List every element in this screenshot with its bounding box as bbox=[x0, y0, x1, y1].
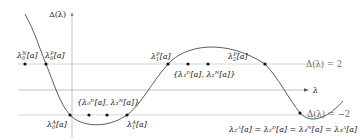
point-lambda1N bbox=[105, 113, 108, 116]
label-lambda0N: λ0N[a] bbox=[16, 50, 39, 61]
point-lambda2N bbox=[206, 62, 209, 65]
equality-label: λ₂ᴬ[a] = λ₂ᴰ[a] = λ₃ᴺ[a] = λ₃ᴬ[a] bbox=[228, 125, 358, 134]
lambda-axis-arrow-icon bbox=[304, 88, 309, 92]
upper-set-label: {λ₁ᴰ[a], λ₂ᴺ[a]} bbox=[173, 70, 235, 79]
discriminant-diagram: Δ(λ) λ Δ(λ) = 2 Δ(λ) = −2 λ0N[a] λ0P[a] … bbox=[0, 0, 360, 140]
x-axis-label: λ bbox=[312, 86, 318, 95]
label-lambda2P: λ2P[a] bbox=[227, 51, 249, 62]
lower-level-label: Δ(λ) = −2 bbox=[307, 109, 350, 119]
point-lambda1D bbox=[186, 62, 189, 65]
point-lambda0D bbox=[87, 113, 90, 116]
label-lambda0A: λ0A[a] bbox=[46, 119, 68, 130]
point-lambda2A bbox=[298, 111, 301, 114]
label-lambda1P: λ1P[a] bbox=[150, 51, 172, 62]
point-lambda1A bbox=[125, 113, 128, 116]
lower-set-label: {λ₀ᴰ[a], λ₁ᴺ[a]} bbox=[77, 98, 139, 107]
point-lambda0P bbox=[44, 62, 47, 65]
upper-level-label: Δ(λ) = 2 bbox=[306, 59, 342, 69]
point-lambda1P bbox=[166, 62, 169, 65]
delta-axis-arrow-icon bbox=[70, 12, 73, 16]
label-lambda1A: λ1A[a] bbox=[126, 119, 148, 130]
point-lambda0N bbox=[23, 62, 26, 65]
label-lambda0P: λ0P[a] bbox=[44, 50, 66, 61]
point-lambda0A bbox=[68, 113, 71, 116]
y-axis-label: Δ(λ) bbox=[49, 10, 66, 19]
point-lambda2P bbox=[263, 62, 266, 65]
